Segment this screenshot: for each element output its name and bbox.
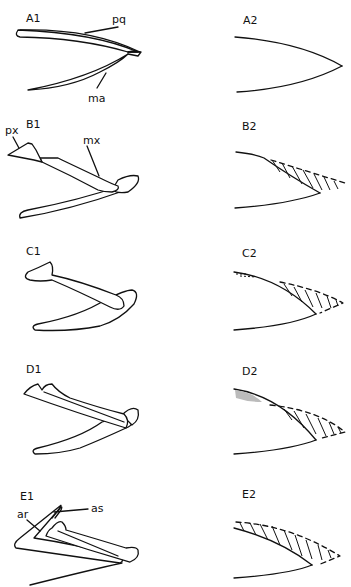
leader-line-pq (85, 27, 118, 33)
annotation-px: px (5, 124, 19, 137)
leader-line-mx (87, 146, 99, 176)
annotation-as: as (91, 502, 104, 515)
annotation-mx: mx (83, 134, 101, 147)
hatched-region-border-c2 (280, 282, 343, 313)
panel-c2: C2 (234, 247, 343, 330)
lower-jaw-curve-e2 (234, 565, 312, 578)
panel-d1: D1 (24, 363, 138, 454)
panel-e2: E2 (234, 488, 340, 578)
upper-jaw-curve-a2 (235, 37, 342, 66)
annotation-ar: ar (17, 508, 29, 521)
hatched-area-c2 (284, 284, 338, 308)
panel-label-d2: D2 (242, 365, 257, 378)
panel-a1: A1 pq ma (16, 12, 141, 105)
lower-jaw-curve-a2 (237, 66, 342, 92)
panel-label-e1: E1 (20, 490, 34, 503)
upper-jaw-curve-e2 (234, 528, 312, 565)
jaw-joint (128, 52, 141, 56)
maxilla-ridge-d1 (44, 392, 124, 422)
maxilla-bone-d1 (24, 384, 128, 428)
panel-b1: B1 px mx (5, 118, 139, 218)
panel-label-b2: B2 (242, 120, 257, 133)
panel-label-b1: B1 (26, 118, 41, 131)
panel-label-c2: C2 (242, 247, 257, 260)
lower-jaw-c1 (33, 290, 136, 331)
hatched-area-d2 (284, 409, 341, 436)
maxilla-bone (40, 158, 118, 192)
hatched-area-b2 (272, 160, 338, 190)
upper-jaw-curve-c2 (234, 272, 316, 314)
panel-label-d1: D1 (26, 363, 41, 376)
leader-line-ma (97, 73, 106, 88)
lower-jaw-curve-b2 (235, 193, 320, 208)
premaxilla-bone (8, 143, 42, 162)
panel-a2: A2 (235, 14, 342, 92)
panel-e1: E1 as ar (15, 490, 139, 585)
panel-b2: B2 (235, 120, 345, 208)
panel-d2: D2 (234, 365, 345, 454)
lower-jaw-curve-d2 (234, 440, 316, 454)
hatched-region-border-e2 (236, 522, 340, 565)
annotation-ma: ma (88, 92, 105, 105)
panel-label-a2: A2 (243, 14, 258, 27)
mandible-bone (28, 54, 128, 90)
annotation-pq: pq (112, 13, 126, 26)
hatched-area-e2 (240, 523, 331, 560)
jaw-diagram-figure: A1 pq ma A2 B1 px mx B2 (0, 0, 351, 587)
lower-jaw-e1 (30, 563, 122, 585)
panel-label-c1: C1 (26, 245, 41, 258)
panel-c1: C1 (25, 245, 136, 331)
lower-jaw-curve-c2 (234, 314, 316, 330)
upper-jaw-curve-b2 (236, 152, 320, 193)
panel-label-a1: A1 (26, 12, 41, 25)
maxilla-bone-c1 (25, 262, 124, 309)
panel-label-e2: E2 (242, 488, 256, 501)
